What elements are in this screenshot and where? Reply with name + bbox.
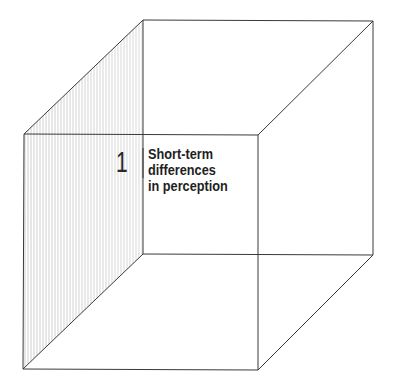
section-number: 1 <box>116 147 128 177</box>
section-title: Short-term differences in perception <box>148 146 228 194</box>
edge-top-right <box>258 21 373 135</box>
title-line-2: differences <box>148 162 228 178</box>
cube-diagram <box>0 0 394 390</box>
left-face-fade <box>23 20 143 369</box>
title-line-3: in perception <box>148 178 228 194</box>
edge-bottom-right <box>258 255 373 370</box>
title-line-1: Short-term <box>148 146 228 162</box>
